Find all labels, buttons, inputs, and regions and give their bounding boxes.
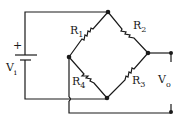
r2-label: R2 xyxy=(133,19,146,34)
node-right xyxy=(146,51,151,56)
vo-label: Vo xyxy=(157,73,171,89)
r1-label: R1 xyxy=(70,24,83,39)
node-left xyxy=(67,55,72,60)
r4-label: R4 xyxy=(72,75,85,90)
top-wire xyxy=(25,12,108,55)
node-bottom xyxy=(105,96,110,101)
node-top xyxy=(106,10,111,15)
vi-label: Vi xyxy=(5,61,17,77)
terminal-vo-minus xyxy=(169,110,173,114)
wheatstone-bridge-diagram: + Vi R1 R2 R3 R4 Vo xyxy=(0,0,184,123)
bottom-wire xyxy=(25,60,107,99)
lower-output-wire xyxy=(69,101,171,113)
battery-plus-sign: + xyxy=(13,39,22,52)
terminal-vo-plus xyxy=(169,51,173,55)
resistor-r3 xyxy=(107,53,148,98)
r3-label: R3 xyxy=(132,74,145,89)
